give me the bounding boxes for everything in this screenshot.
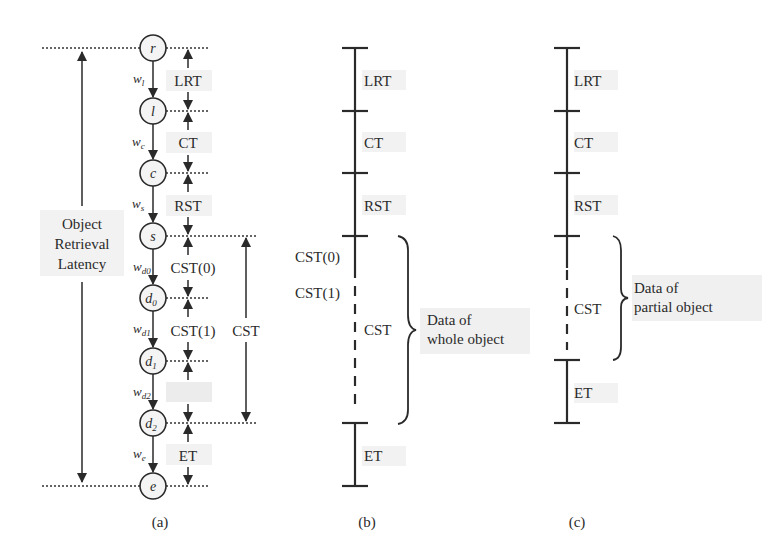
b-label-rst: RST — [364, 198, 392, 214]
b-label-et: ET — [364, 448, 382, 464]
panel-c: LRT CT RST CST ET Data of partial object… — [554, 48, 762, 531]
svg-text:r: r — [150, 41, 156, 56]
svg-text:wd2: wd2 — [133, 384, 151, 401]
node-l: l — [140, 98, 166, 124]
cst-total-arrow: CST — [232, 238, 260, 421]
svg-text:wl: wl — [133, 71, 145, 88]
b-brace-line-2: whole object — [427, 331, 505, 347]
node-e: e — [140, 473, 166, 499]
c-label-cst: CST — [574, 301, 602, 317]
svg-text:s: s — [150, 229, 156, 244]
label-et: ET — [179, 448, 197, 464]
edge-weights: wl wc ws wd0 wd1 wd2 we — [132, 71, 151, 463]
b-label-cst1: CST(1) — [295, 285, 340, 302]
node-r: r — [140, 35, 166, 61]
c-brace-line-1: Data of — [634, 280, 679, 296]
timeline-b — [342, 48, 368, 486]
panel-a: Object Retrieval Latency wl wc ws wd0 wd… — [40, 35, 260, 531]
svg-text:l: l — [151, 104, 155, 119]
total-label-line-3: Latency — [58, 256, 107, 272]
retrieval-latency-diagram: Object Retrieval Latency wl wc ws wd0 wd… — [0, 0, 777, 557]
svg-text:e: e — [150, 479, 156, 494]
total-label-line-1: Object — [62, 216, 103, 232]
interval-labels: LRT CT RST CST(0) CST(1) ET — [166, 70, 216, 465]
svg-text:we: we — [133, 446, 146, 463]
brace-partial-object — [613, 236, 628, 360]
c-label-rst: RST — [574, 198, 602, 214]
b-label-cst0: CST(0) — [295, 249, 340, 266]
label-ct: CT — [178, 135, 197, 151]
label-rst: RST — [174, 198, 202, 214]
brace-whole-object — [398, 236, 416, 424]
b-label-lrt: LRT — [364, 73, 391, 89]
b-brace-line-1: Data of — [427, 312, 472, 328]
b-label-cst: CST — [364, 322, 392, 338]
c-label-et: ET — [574, 385, 592, 401]
svg-text:wd1: wd1 — [133, 321, 151, 338]
c-brace-line-2: partial object — [634, 299, 714, 315]
timeline-c — [554, 48, 580, 423]
node-d1: d1 — [140, 348, 166, 374]
c-label-ct: CT — [574, 135, 593, 151]
svg-text:c: c — [150, 166, 157, 181]
svg-text:wc: wc — [132, 134, 145, 151]
panel-b: LRT CT RST CST(0) CST(1) CST ET Data of … — [295, 48, 530, 531]
node-c: c — [140, 160, 166, 186]
c-label-lrt: LRT — [574, 73, 601, 89]
object-retrieval-latency-arrow: Object Retrieval Latency — [40, 52, 124, 482]
label-cst0: CST(0) — [171, 260, 216, 277]
node-d0: d0 — [140, 285, 166, 311]
blurred-label — [166, 382, 212, 402]
node-d2: d2 — [140, 410, 166, 436]
caption-b: (b) — [358, 514, 376, 531]
label-cst-total: CST — [232, 323, 260, 339]
label-cst1: CST(1) — [171, 323, 216, 340]
b-label-ct: CT — [364, 135, 383, 151]
total-label-line-2: Retrieval — [55, 236, 110, 252]
svg-text:wd0: wd0 — [133, 259, 151, 276]
label-lrt: LRT — [174, 73, 201, 89]
caption-a: (a) — [152, 514, 169, 531]
node-s: s — [140, 223, 166, 249]
svg-text:ws: ws — [132, 196, 145, 213]
caption-c: (c) — [569, 514, 586, 531]
